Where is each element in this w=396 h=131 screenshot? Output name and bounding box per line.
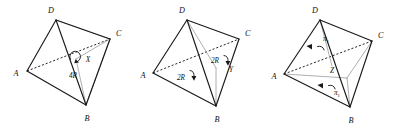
- edge-C-B: [216, 39, 239, 106]
- point-label-Z: Z: [330, 66, 335, 75]
- edge-A-C-hidden: [284, 41, 372, 74]
- panel-3-canvas: π1 π1 Z D C A B: [262, 0, 396, 131]
- edge-D-B: [56, 20, 86, 105]
- panel-1-canvas: D C A B X 4R: [0, 0, 132, 131]
- tetrahedron-panel-1: D C A B X 4R: [0, 0, 132, 131]
- vertex-label-D: D: [178, 6, 185, 15]
- tetrahedron-panel-2: 2R 2R D C A B Y: [130, 0, 264, 131]
- panel-2-canvas: 2R 2R D C A B Y: [130, 0, 264, 131]
- point-label-Y: Y: [229, 65, 234, 74]
- vertex-label-D: D: [311, 6, 318, 15]
- edge-C-X-light: [76, 39, 110, 59]
- edge-D-A: [153, 20, 187, 73]
- rotation-label-2R-lower: 2R: [177, 74, 186, 82]
- point-label-X: X: [85, 55, 91, 64]
- edge-D-C: [56, 20, 110, 39]
- curved-arrow-icon-lower: [190, 71, 194, 77]
- rotation-label-2R-upper: 2R: [211, 57, 220, 65]
- rotation-label-4R: 4R: [69, 72, 78, 80]
- vertex-label-B: B: [214, 115, 219, 124]
- tick-marker-lower: [318, 83, 324, 89]
- curved-arrow-head-lower: [191, 76, 196, 81]
- rotation-label-pi-lower: π1: [334, 89, 340, 98]
- tetrahedra-figure-strip: D C A B X 4R 2R: [0, 0, 396, 131]
- curved-arrow-icon-upper: [224, 56, 228, 62]
- tetrahedron-panel-3: π1 π1 Z D C A B: [262, 0, 396, 131]
- edge-C-Zlow-light: [347, 41, 372, 78]
- edge-A-B: [27, 71, 86, 105]
- edge-D-C: [187, 20, 239, 39]
- vertex-label-A: A: [270, 72, 277, 81]
- vertex-label-C: C: [245, 29, 251, 38]
- edge-C-B: [86, 39, 110, 105]
- vertex-label-A: A: [139, 71, 146, 80]
- edge-C-B: [350, 41, 372, 107]
- vertex-label-C: C: [378, 31, 384, 40]
- edge-D-A: [284, 20, 320, 74]
- curved-arrow-icon-upper: [318, 46, 325, 50]
- vertex-label-D: D: [47, 6, 54, 15]
- edge-D-C: [320, 20, 372, 41]
- vertex-label-B: B: [348, 116, 353, 125]
- edge-D-A: [27, 20, 56, 71]
- edge-A-Zlow-light: [284, 74, 347, 78]
- vertex-label-B: B: [84, 114, 89, 123]
- tick-marker-upper: [307, 44, 313, 50]
- rotation-label-pi-upper: π1: [323, 35, 329, 44]
- vertex-label-C: C: [116, 29, 122, 38]
- vertex-label-A: A: [12, 69, 19, 78]
- circular-arrow-icon: [70, 51, 81, 62]
